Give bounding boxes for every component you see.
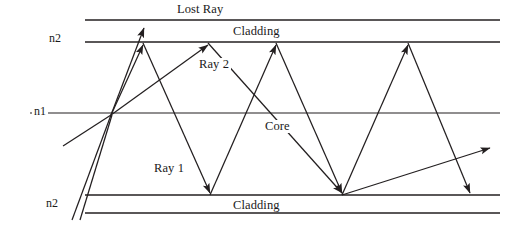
incident-steep-ray-a: [72, 115, 111, 220]
diagram-canvas: Lost Ray n2 Cladding Ray 2 n1 Core Ray 1…: [0, 0, 513, 228]
ray1-seg-4: [276, 43, 342, 193]
ray1-seg-5: [342, 45, 408, 195]
ray1-seg-1: [111, 45, 143, 115]
ray2-seg-1: [111, 45, 208, 115]
incident-rays-group: [63, 115, 112, 220]
fiber-boundaries: [30, 20, 500, 213]
label-ray-1: Ray 1: [152, 162, 186, 175]
lost-ray-segment: [111, 28, 144, 115]
label-cladding-bottom: Cladding: [231, 199, 282, 212]
incident-steep-ray-b: [80, 115, 112, 220]
label-core: Core: [263, 120, 292, 133]
label-lost-ray: Lost Ray: [175, 3, 225, 16]
label-cladding-top: Cladding: [231, 25, 282, 38]
label-ray-2: Ray 2: [197, 58, 231, 71]
lost-ray-path: [111, 28, 144, 115]
label-n2-bottom: n2: [44, 197, 60, 209]
label-n1: n1: [32, 105, 48, 117]
label-n2-top: n2: [47, 32, 63, 44]
